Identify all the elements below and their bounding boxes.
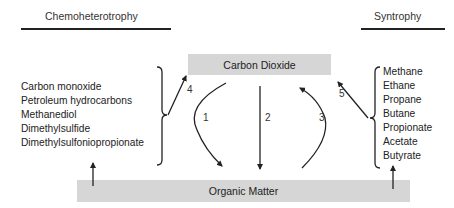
arrow-label-4: 4 [187, 84, 193, 95]
arrow-label-3: 3 [319, 112, 325, 123]
arrow-label-2: 2 [265, 112, 271, 123]
arrow-label-1: 1 [203, 112, 209, 123]
right-brace-icon [370, 67, 380, 168]
arrow-1 [194, 83, 226, 166]
arrow-3 [300, 88, 326, 168]
arrow-label-5: 5 [339, 88, 345, 99]
arrow-layer [0, 0, 454, 208]
arrow-4 [168, 76, 186, 115]
left-brace-icon [157, 67, 167, 165]
